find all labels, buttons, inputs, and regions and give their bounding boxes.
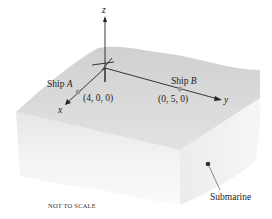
ship-b-coords: (0, 5, 0)	[158, 94, 188, 105]
ship-a-marker	[76, 90, 81, 95]
y-axis-label: y	[223, 95, 229, 105]
x-axis-label: x	[57, 105, 63, 115]
ship-a-coords: (4, 0, 0)	[83, 93, 113, 104]
not-to-scale-note: NOT TO SCALE	[48, 202, 96, 209]
ship-b-marker	[178, 87, 183, 92]
ship-a-label: Ship A	[47, 79, 73, 89]
submarine-label: Submarine	[210, 192, 251, 202]
z-axis-label: z	[101, 5, 106, 15]
ocean-diagram: z x y Ship A (4, 0, 0) Ship B (0, 5, 0) …	[0, 0, 272, 219]
submarine-marker	[206, 162, 211, 167]
ship-b-label: Ship B	[171, 76, 197, 86]
